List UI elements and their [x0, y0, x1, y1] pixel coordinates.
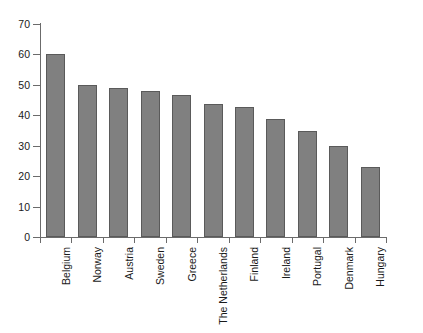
x-axis-tick	[260, 238, 261, 243]
y-axis-tick	[33, 85, 40, 86]
x-axis-tick	[197, 238, 198, 243]
x-axis-category-label: The Netherlands	[218, 247, 229, 325]
y-axis-tick-label: 10	[0, 202, 30, 213]
bar	[141, 91, 160, 237]
y-axis-tick	[33, 237, 40, 238]
y-axis-tick	[33, 54, 40, 55]
x-axis-line	[40, 237, 387, 238]
x-axis-tick	[229, 238, 230, 243]
bar	[204, 104, 223, 237]
y-axis-tick	[33, 146, 40, 147]
bar	[266, 119, 285, 237]
plot-area	[40, 24, 386, 237]
x-axis-category-label: Hungary	[375, 247, 386, 287]
y-axis-tick-label: 40	[0, 110, 30, 121]
bar	[172, 95, 191, 237]
y-axis-tick	[33, 207, 40, 208]
x-axis-category-label: Austria	[124, 247, 135, 280]
y-axis-tick-label: 30	[0, 141, 30, 152]
x-axis-category-label: Ireland	[281, 247, 292, 279]
x-axis-category-label: Greece	[187, 247, 198, 281]
x-axis-tick	[292, 238, 293, 243]
x-axis-tick	[103, 238, 104, 243]
bar	[109, 88, 128, 237]
x-axis-category-label: Belgium	[61, 247, 72, 285]
bar	[329, 146, 348, 237]
x-axis-tick	[40, 238, 41, 243]
x-axis-tick	[166, 238, 167, 243]
x-axis-category-label: Denmark	[344, 247, 355, 290]
bar	[361, 167, 380, 237]
bar	[235, 107, 254, 237]
y-axis-tick-label: 0	[0, 232, 30, 243]
bar	[298, 131, 317, 238]
y-axis-tick	[33, 176, 40, 177]
bar-chart: 010203040506070 BelgiumNorwayAustriaSwed…	[0, 0, 423, 333]
y-axis-tick-label: 60	[0, 49, 30, 60]
x-axis-category-label: Sweden	[155, 247, 166, 285]
x-axis-tick	[323, 238, 324, 243]
y-axis-tick-label: 70	[0, 19, 30, 30]
x-axis-category-label: Norway	[92, 247, 103, 283]
y-axis-tick	[33, 24, 40, 25]
bar	[78, 85, 97, 237]
y-axis-tick-label: 50	[0, 80, 30, 91]
x-axis-category-label: Portugal	[312, 247, 323, 286]
y-axis-tick-label: 20	[0, 171, 30, 182]
x-axis-tick	[71, 238, 72, 243]
x-axis-tick	[355, 238, 356, 243]
x-axis-tick	[386, 238, 387, 243]
x-axis-tick	[134, 238, 135, 243]
y-axis-tick	[33, 115, 40, 116]
bar	[46, 54, 65, 237]
x-axis-category-label: Finland	[249, 247, 260, 281]
